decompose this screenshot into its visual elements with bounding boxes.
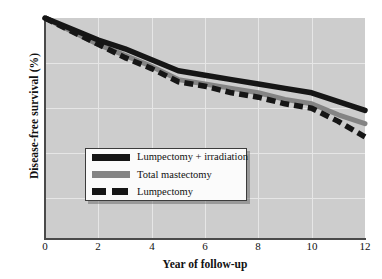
legend-item-lumpectomy-irradiation: Lumpectomy + irradiation xyxy=(86,149,246,166)
solid-gray-swatch-icon xyxy=(92,171,130,178)
disease-free-survival-chart: 100 80 60 40 20 0 0 2 4 6 8 10 12 Diseas… xyxy=(0,0,382,279)
legend-label-lumpectomy-irradiation: Lumpectomy + irradiation xyxy=(137,152,248,163)
series-line-total-mastectomy xyxy=(45,18,365,124)
solid-black-swatch-icon xyxy=(92,154,130,161)
legend-label-lumpectomy: Lumpectomy xyxy=(137,187,193,198)
series-line-lumpectomy-irradiation xyxy=(45,18,365,110)
legend-item-lumpectomy: Lumpectomy xyxy=(86,183,246,200)
legend: Lumpectomy + irradiation Total mastectom… xyxy=(85,148,247,201)
legend-label-total-mastectomy: Total mastectomy xyxy=(137,170,212,181)
dashed-black-swatch-icon xyxy=(92,188,130,195)
legend-item-total-mastectomy: Total mastectomy xyxy=(86,166,246,183)
series-curves xyxy=(0,0,382,279)
